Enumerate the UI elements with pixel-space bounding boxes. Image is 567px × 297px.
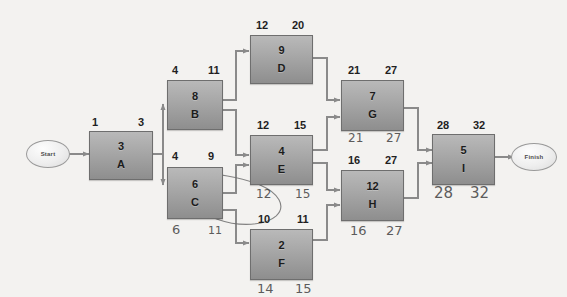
node-i-es: 28 [437, 119, 449, 131]
node-f-ef: 11 [297, 213, 309, 225]
node-c[interactable]: 6 C [167, 167, 223, 219]
node-f[interactable]: 2 F [250, 229, 313, 280]
node-f-lf: 15 [295, 282, 312, 295]
node-e-ls: 12 [256, 188, 271, 201]
node-d-duration: 9 [278, 44, 284, 57]
node-f-es: 10 [258, 213, 270, 225]
node-c-ls: 6 [172, 223, 180, 236]
node-e-label: E [278, 162, 285, 176]
node-h-duration: 12 [366, 180, 378, 193]
node-e-es: 12 [257, 119, 269, 131]
node-c-es: 4 [172, 150, 178, 162]
node-a-ef: 3 [138, 116, 144, 128]
node-d-ef: 20 [292, 19, 304, 31]
node-b-es: 4 [172, 64, 178, 76]
node-a[interactable]: 3 A [89, 131, 153, 180]
node-h-ls: 16 [350, 224, 367, 237]
node-g[interactable]: 7 G [341, 80, 404, 131]
node-a-label: A [117, 157, 125, 171]
node-a-es: 1 [92, 116, 98, 128]
node-i-ef: 32 [473, 119, 485, 131]
node-h[interactable]: 12 H [341, 170, 404, 221]
node-a-duration: 3 [118, 140, 124, 153]
node-e[interactable]: 4 E [250, 135, 313, 185]
start-terminal: Start [26, 140, 70, 168]
node-b-ef: 11 [208, 64, 220, 76]
node-e-duration: 4 [278, 145, 284, 158]
node-h-lf: 27 [386, 224, 403, 237]
node-c-ef: 9 [208, 150, 214, 162]
node-g-label: G [368, 107, 377, 121]
node-i-duration: 5 [460, 144, 466, 157]
node-h-es: 16 [348, 154, 360, 166]
start-terminal-label: Start [41, 151, 56, 157]
node-g-ls: 21 [348, 132, 363, 145]
node-f-duration: 2 [278, 239, 284, 252]
node-c-duration: 6 [192, 178, 198, 191]
node-f-label: F [278, 256, 285, 270]
node-f-ls: 14 [257, 282, 274, 295]
node-e-lf: 15 [295, 188, 310, 201]
node-b-label: B [191, 107, 199, 121]
node-g-lf: 27 [386, 132, 401, 145]
node-e-ef: 15 [294, 119, 306, 131]
node-d-es: 12 [256, 19, 268, 31]
node-i-label: I [462, 161, 465, 175]
node-c-lf: 11 [208, 224, 222, 237]
node-b[interactable]: 8 B [167, 80, 223, 130]
finish-terminal: Finish [511, 143, 557, 171]
node-g-ef: 27 [385, 64, 397, 76]
node-h-label: H [369, 197, 377, 211]
finish-terminal-label: Finish [525, 154, 544, 160]
node-g-es: 21 [348, 64, 360, 76]
node-d[interactable]: 9 D [250, 35, 313, 84]
node-d-label: D [278, 61, 286, 75]
node-g-duration: 7 [369, 90, 375, 103]
node-b-duration: 8 [192, 90, 198, 103]
node-i-ls: 28 [434, 187, 453, 200]
network-diagram-canvas: Start Finish 1 3 3 A 4 11 8 B 4 9 6 C 6 … [0, 0, 567, 297]
node-h-ef: 27 [385, 154, 397, 166]
node-i-lf: 32 [470, 187, 489, 200]
node-c-label: C [191, 195, 199, 209]
node-i[interactable]: 5 I [432, 134, 495, 185]
